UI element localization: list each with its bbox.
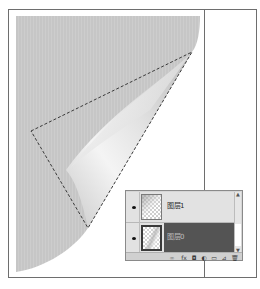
new-layer-icon[interactable]: ⊿ — [221, 254, 227, 260]
new-group-icon[interactable]: ▭ — [211, 254, 217, 260]
layers-panel-toolbar: ∞ fx ◘ ◐ ▭ ⊿ 🗑 — [126, 252, 242, 260]
layer-row-selected[interactable]: 图层0 — [126, 223, 236, 254]
layers-scrollbar[interactable]: ▲ ▼ — [234, 192, 241, 253]
layer-style-icon[interactable]: fx — [181, 254, 187, 260]
adjustment-layer-icon[interactable]: ◐ — [201, 254, 207, 260]
layer-name: 图层1 — [167, 201, 184, 211]
layer-mask-icon[interactable]: ◘ — [191, 254, 197, 260]
delete-layer-icon[interactable]: 🗑 — [231, 254, 237, 260]
link-layers-icon[interactable]: ∞ — [167, 254, 177, 260]
layer-row[interactable]: 图层1 — [126, 192, 236, 223]
eye-icon[interactable] — [128, 192, 140, 223]
scroll-up-arrow-icon[interactable]: ▲ — [235, 192, 241, 197]
eye-icon[interactable] — [128, 223, 140, 254]
layer-thumbnail — [141, 194, 162, 220]
layers-panel: 图层1 图层0 ▲ ▼ ∞ fx ◘ ◐ ▭ ⊿ 🗑 — [125, 190, 243, 261]
scroll-thumb[interactable] — [235, 224, 241, 246]
layer-thumbnail — [141, 225, 162, 251]
layer-name: 图层0 — [167, 232, 184, 242]
